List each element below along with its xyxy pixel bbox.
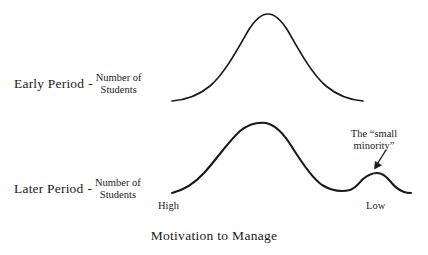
x-tick-label-low: Low [366, 200, 385, 211]
down-left-arrow-icon [375, 150, 387, 169]
annotation-small-minority-line2: minority” [332, 140, 416, 152]
y-axis-label-later-line1: Number of [95, 177, 141, 188]
x-tick-label-high: High [158, 200, 179, 211]
series-dash-later: - [84, 181, 96, 197]
y-axis-label-early-line2: Students [96, 84, 142, 96]
annotation-small-minority: The “small minority” [332, 128, 416, 151]
y-axis-label-early: Number of Students [96, 72, 142, 95]
annotation-small-minority-line1: The “small [351, 128, 397, 139]
series-name-later-period: Later Period [14, 181, 84, 197]
y-axis-label-later-line2: Students [95, 189, 141, 201]
series-label-early-period: Early Period - Number of Students [14, 72, 142, 95]
x-axis-title: Motivation to Manage [0, 228, 428, 244]
early-period-curve [172, 14, 363, 101]
y-axis-label-early-line1: Number of [96, 72, 142, 83]
y-axis-label-later: Number of Students [95, 177, 141, 200]
series-label-later-period: Later Period - Number of Students [14, 177, 141, 200]
series-dash-early: - [84, 76, 96, 92]
motivation-to-manage-figure: Early Period - Number of Students Later … [0, 0, 428, 255]
series-name-early-period: Early Period [14, 76, 84, 92]
